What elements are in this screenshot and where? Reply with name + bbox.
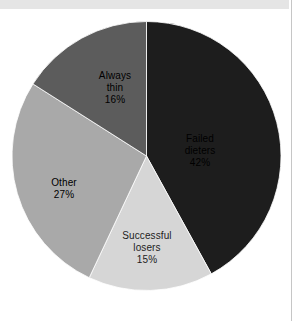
top-grey-band bbox=[0, 0, 289, 9]
right-vertical-rule bbox=[291, 0, 292, 321]
pie-chart-svg bbox=[0, 9, 291, 321]
pie-chart: Failed dieters 42% Successful losers 15%… bbox=[0, 9, 291, 321]
chart-page: Failed dieters 42% Successful losers 15%… bbox=[0, 0, 304, 321]
